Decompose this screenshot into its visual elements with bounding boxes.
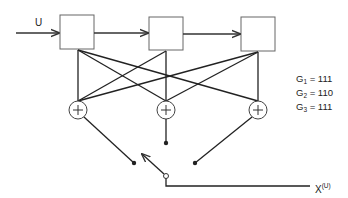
contact-1 — [132, 161, 136, 165]
commutator-pivot — [164, 174, 169, 179]
generator-2: G2 = 110 — [296, 87, 333, 102]
generator-value: 111 — [318, 73, 332, 84]
register-stage-1 — [60, 15, 94, 49]
contact-2 — [164, 141, 168, 145]
adder-1 — [69, 101, 87, 119]
output-line — [166, 179, 310, 187]
generator-1: G1 = 111 — [296, 73, 332, 88]
output-symbol: X — [315, 184, 322, 195]
tap-connections — [78, 50, 258, 101]
equals-sign: = — [310, 73, 316, 84]
register-stage-2 — [149, 17, 183, 50]
equals-sign: = — [310, 101, 316, 112]
generator-index: 3 — [303, 106, 307, 113]
generator-3: G3 = 111 — [296, 101, 332, 116]
adder-outputs — [84, 117, 252, 163]
contact-3 — [193, 161, 197, 165]
generator-value: 111 — [318, 101, 332, 112]
generator-value: 110 — [318, 87, 333, 98]
input-label: U — [35, 17, 42, 29]
generator-index: 1 — [303, 78, 307, 85]
adder-3 — [249, 101, 267, 119]
output-label: X(U) — [315, 180, 331, 196]
commutator-arm — [142, 154, 164, 174]
register-stage-3 — [241, 17, 275, 51]
generator-index: 2 — [303, 92, 307, 99]
output-superscript: (U) — [322, 182, 331, 189]
adder-2 — [157, 101, 175, 119]
equals-sign: = — [310, 87, 316, 98]
